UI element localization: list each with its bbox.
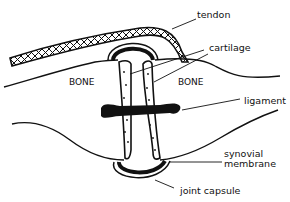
label-membrane: membrane (224, 159, 276, 169)
lower-synovial-membrane (119, 161, 165, 172)
label-bone-left: BONE (69, 77, 95, 87)
joint-diagram: tendon cartilage BONE BONE ligament syno… (0, 0, 290, 202)
upper-bone-outline (4, 59, 280, 87)
label-cartilage: cartilage (209, 43, 251, 53)
label-tendon: tendon (197, 10, 230, 20)
label-ligament: ligament (244, 96, 286, 106)
upper-synovial-membrane (113, 49, 153, 60)
label-joint-capsule: joint capsule (180, 186, 240, 196)
tendon (10, 28, 188, 66)
ligament (101, 104, 180, 118)
label-bone-right: BONE (178, 77, 204, 87)
